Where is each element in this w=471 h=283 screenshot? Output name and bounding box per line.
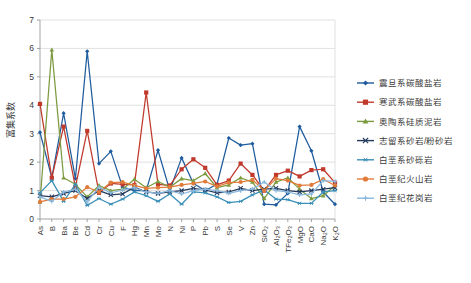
data-point-marker	[309, 149, 313, 153]
data-point-marker	[180, 156, 184, 160]
data-point-marker	[180, 167, 184, 171]
chart-legend: 震旦系碳酸盐岩寒武系碳酸盐岩奥陶系硅质泥岩志留系砂岩/粉砂岩白垩系砂砾岩白垩纪火…	[357, 78, 453, 203]
data-point-marker	[298, 202, 302, 205]
enrichment-coefficient-line-chart: 01234567 AsBBaBeCdCrCuFHgMnMoNNiPPbSSeVZ…	[0, 0, 471, 283]
x-category-label: B	[48, 226, 57, 231]
legend-item-1[interactable]: 震旦系碳酸盐岩	[357, 78, 442, 88]
x-category-label: Ni	[178, 226, 187, 234]
data-point-marker	[109, 203, 113, 206]
x-category-label: Al₂O₃	[272, 226, 281, 246]
x-category-label: Pb	[201, 225, 210, 235]
data-point-marker	[132, 177, 137, 181]
legend-label: 震旦系碳酸盐岩	[379, 78, 442, 88]
data-point-marker	[62, 111, 66, 115]
x-category-label: Cd	[83, 226, 92, 236]
x-category-label: Cr	[95, 226, 104, 235]
y-tick-label: 2	[29, 157, 34, 167]
data-point-marker	[191, 157, 195, 161]
x-category-label: Cu	[107, 226, 116, 236]
data-point-marker	[38, 102, 42, 106]
data-point-marker	[38, 200, 42, 204]
data-point-marker	[239, 200, 243, 203]
y-tick-label: 4	[29, 100, 34, 110]
data-point-marker	[61, 175, 66, 179]
data-point-marker	[363, 158, 368, 162]
x-category-label: MgO	[296, 226, 305, 243]
x-category-label: F	[119, 226, 128, 231]
x-category-label: CaO	[307, 226, 316, 242]
data-point-marker	[274, 173, 278, 177]
data-point-marker	[286, 179, 290, 183]
data-point-marker	[309, 168, 313, 172]
data-point-marker	[298, 183, 302, 187]
x-category-label: V	[237, 225, 246, 231]
data-point-marker	[250, 142, 254, 146]
data-point-marker	[274, 198, 278, 201]
legend-item-7[interactable]: 白垩纪花岗岩	[357, 193, 433, 203]
data-point-marker	[144, 186, 148, 190]
data-point-marker	[62, 125, 66, 129]
data-point-marker	[262, 202, 266, 206]
data-point-marker	[274, 177, 278, 181]
data-point-marker	[286, 169, 290, 173]
y-tick-label: 3	[29, 129, 34, 139]
x-category-label: Na₂O	[319, 226, 328, 246]
data-point-marker	[62, 197, 66, 201]
data-point-marker	[239, 162, 243, 166]
x-category-label: SiO₂	[260, 226, 269, 242]
legend-item-3[interactable]: 奥陶系硅质泥岩	[357, 117, 442, 127]
data-point-marker	[97, 190, 101, 194]
data-series-layer	[38, 47, 338, 207]
data-point-marker	[238, 175, 243, 179]
legend-item-2[interactable]: 寒武系碳酸盐岩	[357, 97, 442, 107]
y-tick-label: 5	[29, 72, 34, 82]
x-category-label: K₂O	[331, 226, 340, 241]
data-point-marker	[144, 194, 148, 197]
data-point-marker	[215, 195, 219, 198]
data-point-marker	[168, 193, 172, 196]
x-category-label: S	[213, 226, 222, 231]
data-point-marker	[180, 183, 184, 187]
x-category-label: Hg	[130, 226, 139, 236]
data-point-marker	[333, 183, 337, 187]
data-point-marker	[298, 125, 302, 129]
y-axis-title-text: 富集系数	[5, 102, 16, 138]
x-category-label: Mn	[142, 226, 151, 237]
chart-container: 01234567 AsBBaBeCdCrCuFHgMnMoNNiPPbSSeVZ…	[0, 0, 471, 283]
data-point-marker	[156, 148, 160, 152]
x-category-label: P	[189, 226, 198, 231]
data-point-marker	[250, 178, 254, 182]
y-tick-label: 6	[29, 43, 34, 53]
legend-label: 白垩纪花岗岩	[379, 193, 433, 203]
data-point-marker	[156, 179, 161, 183]
data-point-marker	[363, 196, 368, 201]
data-point-marker	[309, 202, 313, 205]
legend-label: 白垩纪火山岩	[379, 174, 433, 184]
x-category-label: Se	[225, 225, 234, 235]
legend-item-6[interactable]: 白垩纪火山岩	[357, 174, 433, 184]
legend-item-4[interactable]: 志留系砂岩/粉砂岩	[357, 136, 453, 146]
series-3	[38, 47, 338, 203]
data-point-marker	[298, 174, 302, 178]
x-category-label: As	[36, 226, 45, 235]
data-point-marker	[156, 200, 160, 203]
data-point-marker	[321, 167, 325, 171]
x-category-label: Zn	[248, 226, 257, 235]
data-point-marker	[180, 203, 184, 206]
legend-item-5[interactable]: 白垩系砂砾岩	[357, 155, 433, 165]
y-axis-title: 富集系数	[5, 102, 16, 138]
data-point-marker	[85, 185, 89, 189]
data-point-marker	[156, 186, 160, 190]
data-point-marker	[239, 180, 243, 184]
x-axis-category-labels: AsBBaBeCdCrCuFHgMnMoNNiPPbSSeVZnSiO₂Al₂O…	[36, 225, 340, 252]
data-point-marker	[85, 129, 89, 133]
data-point-marker	[262, 189, 266, 193]
data-point-marker	[97, 197, 101, 200]
data-point-marker	[250, 173, 254, 177]
data-point-marker	[227, 201, 231, 204]
data-point-marker	[144, 90, 148, 94]
data-point-marker	[309, 183, 313, 187]
data-point-marker	[85, 49, 89, 53]
legend-label: 志留系砂岩/粉砂岩	[379, 136, 453, 146]
x-category-label: TFe₂O₃	[284, 226, 293, 253]
